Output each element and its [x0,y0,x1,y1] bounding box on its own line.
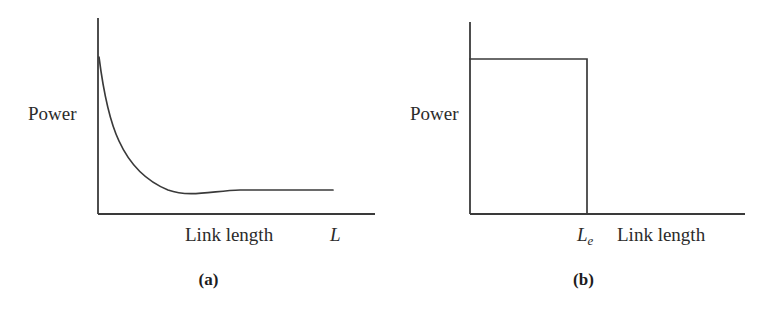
panel-caption-b: (b) [392,271,783,288]
panel-a: Power Link length L (a) [0,0,391,317]
y-axis-label-b: Power [410,104,459,123]
panel-caption-a: (a) [0,271,391,288]
tick-Le-base: L [577,224,588,245]
x-axis-tick-Le: Le [577,225,593,248]
x-axis-tick-L: L [330,225,341,244]
y-axis-label-a: Power [28,104,77,123]
x-axis-label-a: Link length [185,225,273,244]
tick-Le-subscript: e [588,233,594,248]
power-decay-curve [99,57,333,194]
figure-container: Power Link length L (a) Power Le Link le… [0,0,783,317]
power-step-curve [470,59,587,214]
panel-b: Power Le Link length (b) [392,0,783,317]
x-axis-label-b: Link length [617,225,705,244]
